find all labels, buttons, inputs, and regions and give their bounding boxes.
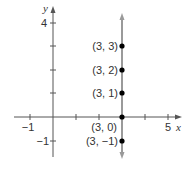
x-axis-label: x bbox=[175, 121, 181, 133]
label-3-neg1: (3, −1) bbox=[86, 135, 118, 147]
y-tick-label-neg1: −1 bbox=[36, 135, 49, 147]
label-3-0: (3, 0) bbox=[91, 121, 117, 133]
line-arrow-down-icon bbox=[120, 152, 125, 159]
line-arrow-up-icon bbox=[120, 13, 125, 20]
x-tick-label-5: 5 bbox=[165, 121, 171, 133]
x-axis-arrow-icon bbox=[175, 115, 182, 120]
y-axis-label: y bbox=[42, 2, 48, 14]
point-3-3 bbox=[119, 43, 124, 48]
point-3-neg1 bbox=[119, 138, 124, 143]
label-3-2: (3, 2) bbox=[92, 64, 118, 76]
point-3-2 bbox=[119, 67, 124, 72]
label-3-3: (3, 3) bbox=[92, 40, 118, 52]
x-tick-label-neg1: −1 bbox=[22, 121, 35, 133]
point-3-1 bbox=[119, 90, 124, 95]
y-tick-label-4: 4 bbox=[41, 17, 47, 29]
y-axis-arrow-icon bbox=[51, 6, 56, 13]
point-3-0 bbox=[119, 114, 124, 119]
coordinate-plane: (3, 3) (3, 2) (3, 1) (3, 0) (3, −1) −1 5… bbox=[0, 0, 187, 169]
label-3-1: (3, 1) bbox=[92, 87, 118, 99]
